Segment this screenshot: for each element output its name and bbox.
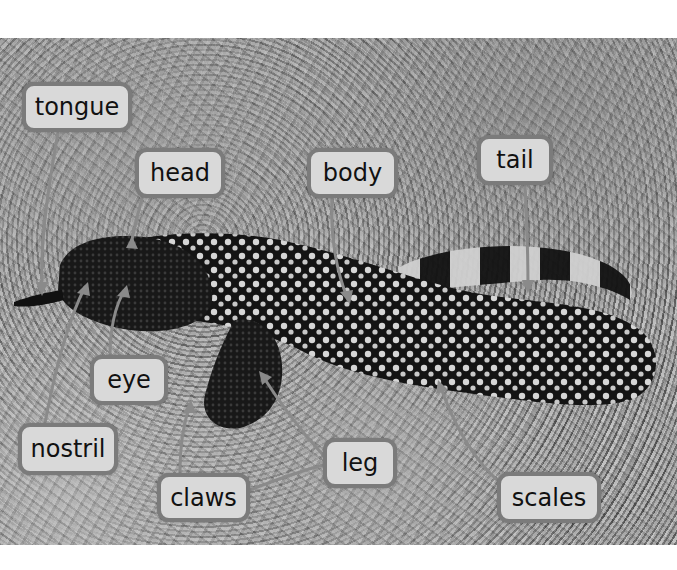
label-head-text: head <box>150 159 210 187</box>
label-tail-text: tail <box>496 146 533 174</box>
leader-line-leg <box>262 375 323 455</box>
arrowhead-eye <box>117 285 130 298</box>
leader-line-tongue <box>42 132 58 290</box>
leader-line-nostril <box>45 287 85 423</box>
leader-line-claws-extra <box>250 465 323 490</box>
arrowhead-tongue <box>36 282 48 296</box>
leader-line-scales <box>440 385 497 480</box>
label-tongue-text: tongue <box>35 93 120 121</box>
arrowhead-tail <box>522 280 534 293</box>
label-head: head <box>135 148 225 198</box>
leader-line-body <box>332 198 348 300</box>
label-nostril: nostril <box>18 423 118 475</box>
leader-line-head <box>132 198 142 240</box>
label-tail: tail <box>477 135 553 185</box>
label-body: body <box>307 148 398 198</box>
label-claws: claws <box>157 473 250 522</box>
arrowhead-claws <box>183 400 196 413</box>
label-scales-text: scales <box>512 484 586 512</box>
label-scales: scales <box>497 472 601 523</box>
label-eye-text: eye <box>107 366 151 394</box>
label-leg-text: leg <box>342 449 379 477</box>
arrowhead-body <box>340 290 353 304</box>
leader-line-claws <box>180 405 190 473</box>
label-claws-text: claws <box>170 484 237 512</box>
label-leg: leg <box>323 438 397 488</box>
arrowhead-nostril <box>77 282 90 296</box>
label-eye: eye <box>90 355 168 405</box>
label-body-text: body <box>323 159 382 187</box>
label-tongue: tongue <box>22 82 132 132</box>
leader-line-tail <box>525 185 528 288</box>
label-nostril-text: nostril <box>30 435 105 463</box>
leader-line-eye <box>110 290 125 355</box>
arrowhead-head <box>126 236 138 249</box>
arrowhead-scales <box>436 380 448 394</box>
